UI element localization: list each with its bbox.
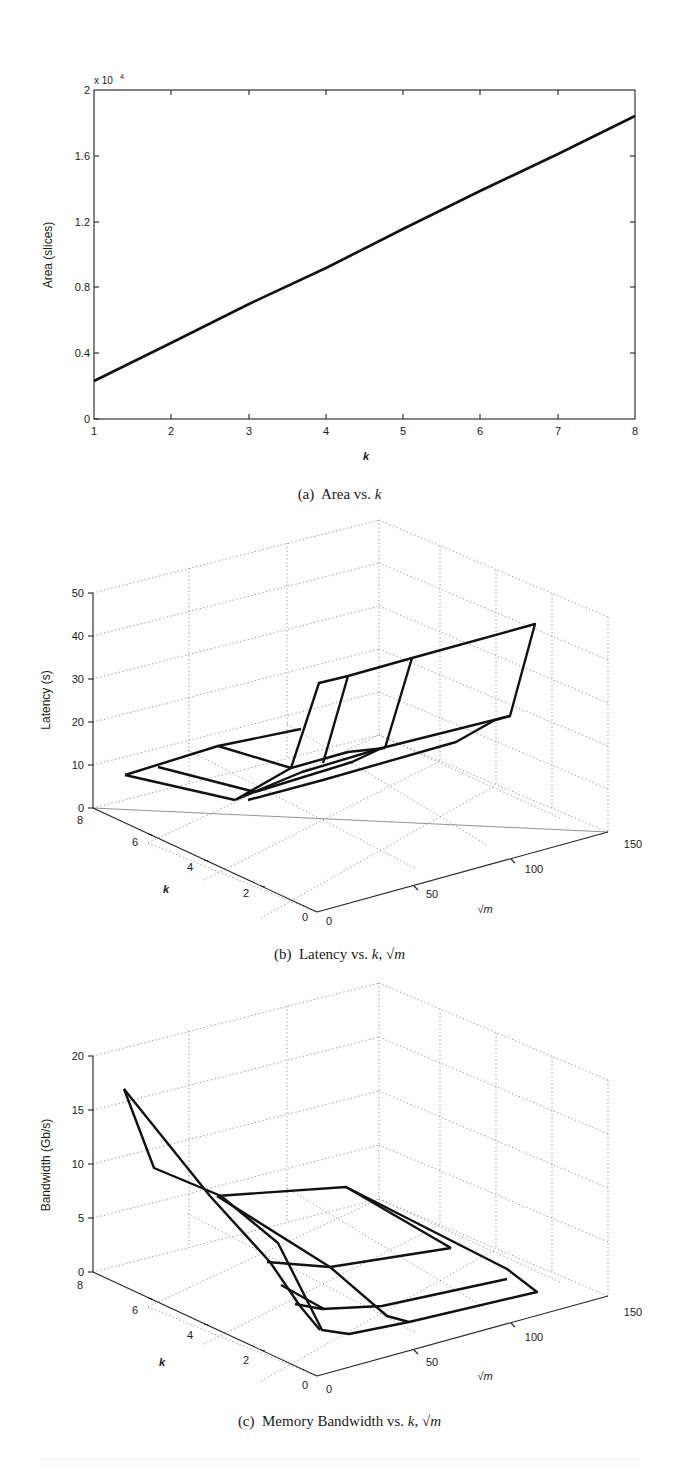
caption-text: Memory Bandwidth vs.: [262, 1413, 404, 1429]
k-tick-label: 0: [302, 1379, 308, 1391]
k-tick-label: 6: [132, 1304, 138, 1316]
cropped-text-remnant: [40, 1458, 640, 1466]
k-axis-label: k: [159, 1356, 166, 1368]
caption-var: k: [408, 1413, 415, 1429]
caption-prefix: (c): [238, 1413, 255, 1429]
m-tick-label: 0: [326, 1383, 332, 1395]
grid-lines: [93, 983, 608, 1381]
subfigure-c: 0 5 10 15 20 0 2 4 6 8 0 50 100 150 Band…: [0, 0, 679, 1471]
axes: [88, 1056, 608, 1376]
m-tick-label: 150: [624, 1306, 642, 1318]
bandwidth-3d-chart: 0 5 10 15 20 0 2 4 6 8 0 50 100 150 Band…: [0, 0, 679, 1471]
z-axis-label: Bandwidth (Gb/s): [39, 1119, 53, 1212]
k-tick-label: 8: [77, 1279, 83, 1291]
z-tick-label: 5: [78, 1212, 84, 1224]
z-tick-label: 20: [72, 1050, 84, 1062]
m-axis-label: √m: [477, 1370, 492, 1382]
m-tick-label: 100: [525, 1331, 543, 1343]
caption-var2: √m: [422, 1413, 441, 1429]
caption-c: (c) Memory Bandwidth vs. k, √m: [0, 1413, 679, 1430]
bandwidth-surface: [124, 1089, 537, 1334]
z-tick-label: 0: [78, 1266, 84, 1278]
k-tick-label: 4: [187, 1329, 193, 1341]
z-tick-label: 10: [72, 1158, 84, 1170]
z-tick-label: 15: [72, 1104, 84, 1116]
caption-sep: ,: [415, 1413, 419, 1429]
m-tick-label: 50: [426, 1356, 438, 1368]
k-tick-label: 2: [243, 1354, 249, 1366]
